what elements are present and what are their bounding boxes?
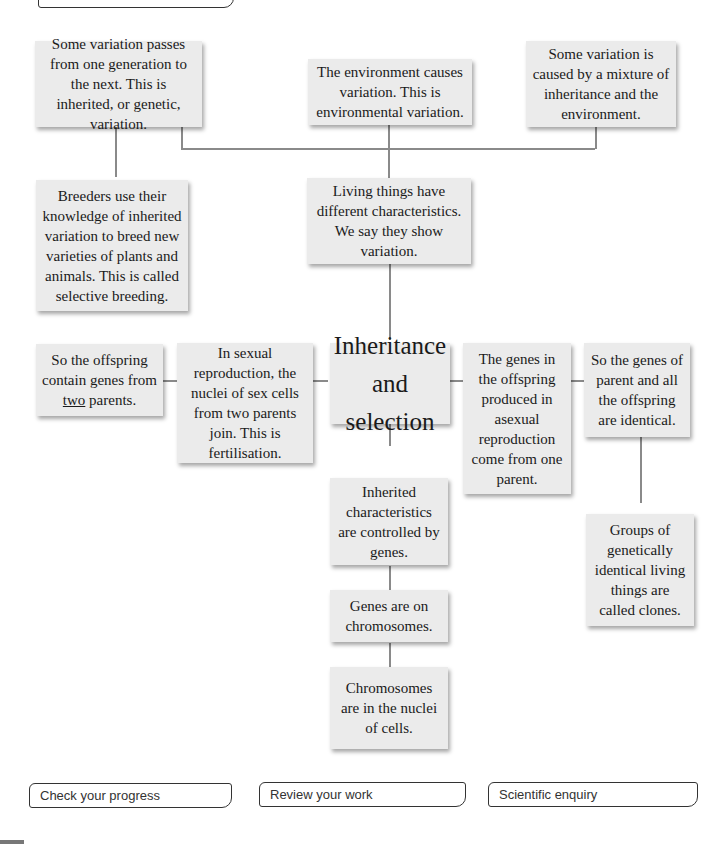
central-title: Inheritance and selection <box>334 327 446 441</box>
box-sexual-reproduction: In sexual reproduction, the nuclei of se… <box>177 343 313 463</box>
check-progress-tab[interactable]: Check your progress <box>29 783 232 808</box>
central-title-box: Inheritance and selection <box>330 343 450 424</box>
box-asexual-genes: The genes in the offspring produced in a… <box>463 343 571 494</box>
box-text: So the genes of parent and all the offsp… <box>590 350 684 430</box>
box-chromosomes-in-nuclei: Chromosomes are in the nuclei of cells. <box>330 667 448 749</box>
connector <box>389 566 391 590</box>
connector <box>450 380 464 382</box>
tab-label: Scientific enquiry <box>499 787 597 802</box>
box-text: Living things have different characteris… <box>313 181 465 261</box>
scientific-enquiry-tab[interactable]: Scientific enquiry <box>488 782 698 807</box>
text-part: So the offspring contain genes from <box>42 352 157 388</box>
box-text: The genes in the offspring produced in a… <box>469 349 565 489</box>
title-line: selection <box>334 403 446 441</box>
box-text: In sexual reproduction, the nuclei of se… <box>183 343 307 463</box>
box-text: Chromosomes are in the nuclei of cells. <box>336 678 442 738</box>
box-text: Inherited characteristics are controlled… <box>336 482 442 562</box>
top-section-tab[interactable] <box>38 0 234 8</box>
connector <box>595 127 597 149</box>
review-your-work-tab[interactable]: Review your work <box>259 782 466 807</box>
connector <box>389 643 391 667</box>
connector <box>163 380 177 382</box>
text-part: parents. <box>85 392 136 408</box>
box-selective-breeding: Breeders use their knowledge of inherite… <box>36 180 188 311</box>
connector <box>640 437 642 503</box>
box-inherited-variation: Some variation passes from one generatio… <box>35 41 202 127</box>
box-offspring-two-parents: So the offspring contain genes from two … <box>36 344 163 416</box>
box-identical-genes: So the genes of parent and all the offsp… <box>584 343 690 437</box>
title-line: and <box>334 365 446 403</box>
underlined-word: two <box>63 392 86 408</box>
tab-label: Review your work <box>270 787 373 802</box>
box-living-things: Living things have different characteris… <box>307 178 471 264</box>
box-environmental-variation: The environment causes variation. This i… <box>308 59 472 125</box>
title-line: Inheritance <box>334 327 446 365</box>
box-text: The environment causes variation. This i… <box>314 62 466 122</box>
connector <box>388 125 390 182</box>
box-text: Genes are on chromosomes. <box>336 596 442 636</box>
box-controlled-by-genes: Inherited characteristics are controlled… <box>330 478 448 565</box>
box-text: Some variation passes from one generatio… <box>41 34 196 134</box>
box-text: Groups of genetically identical living t… <box>592 520 688 620</box>
tab-label: Check your progress <box>40 788 160 803</box>
box-clones: Groups of genetically identical living t… <box>586 514 694 626</box>
box-mixture-variation: Some variation is caused by a mixture of… <box>526 41 676 127</box>
connector <box>115 127 117 177</box>
connector <box>570 380 584 382</box>
box-text: So the offspring contain genes from two … <box>42 350 157 410</box>
box-genes-on-chromosomes: Genes are on chromosomes. <box>330 590 448 642</box>
box-text: Breeders use their knowledge of inherite… <box>42 186 182 306</box>
box-text: Some variation is caused by a mixture of… <box>532 44 670 124</box>
page-marker <box>0 840 24 844</box>
